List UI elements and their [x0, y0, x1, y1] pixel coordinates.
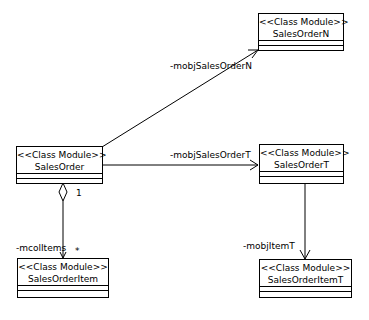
class-salesorder[interactable]: <<Class Module>> SalesOrder — [16, 146, 103, 184]
class-salesorderitem[interactable]: <<Class Module>> SalesOrderItem — [17, 258, 109, 298]
class-name: SalesOrderItemT — [260, 274, 351, 286]
class-name: SalesOrderT — [260, 159, 343, 171]
stereotype-label: <<Class Module>> — [18, 261, 108, 273]
role-label-mobjitemt: -mobjItemT — [243, 241, 295, 251]
aggregation-diamond-icon — [59, 183, 67, 201]
role-label-mobjsalesordert: -mobjSalesOrderT — [170, 150, 251, 160]
class-name: SalesOrderItem — [18, 273, 108, 285]
operations-compartment — [260, 176, 343, 181]
multiplicity-target: * — [75, 246, 80, 256]
stereotype-label: <<Class Module>> — [259, 16, 343, 28]
operations-compartment — [18, 290, 108, 295]
operations-compartment — [260, 291, 351, 296]
stereotype-label: <<Class Module>> — [260, 262, 351, 274]
class-name: SalesOrder — [17, 161, 102, 173]
class-name: SalesOrderN — [259, 28, 343, 40]
operations-compartment — [259, 45, 343, 50]
role-label-mcolitems: -mcolItems — [16, 243, 66, 253]
arrowhead-icon — [248, 50, 258, 58]
role-label-mobjsalesordern: -mobjSalesOrderN — [170, 61, 252, 71]
class-salesorderitemt[interactable]: <<Class Module>> SalesOrderItemT — [259, 259, 352, 298]
class-salesordert[interactable]: <<Class Module>> SalesOrderT — [259, 144, 344, 184]
stereotype-label: <<Class Module>> — [260, 147, 343, 159]
class-salesordern[interactable]: <<Class Module>> SalesOrderN — [258, 13, 344, 51]
multiplicity-source: 1 — [76, 188, 82, 198]
stereotype-label: <<Class Module>> — [17, 149, 102, 161]
operations-compartment — [17, 178, 102, 183]
